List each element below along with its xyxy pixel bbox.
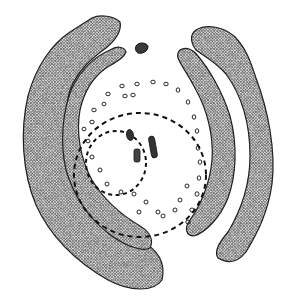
isolated-stone [135, 43, 148, 53]
stone-2 [148, 136, 158, 159]
inner-bank-right [178, 48, 235, 236]
site-plan-illustration [0, 0, 282, 303]
stone-1 [126, 129, 135, 141]
stone-3 [134, 149, 140, 162]
